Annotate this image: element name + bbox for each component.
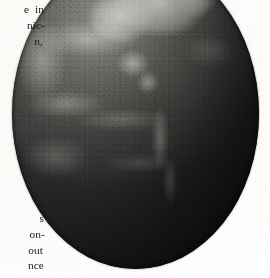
text-line: n,: [0, 34, 58, 50]
text-line: nic-: [0, 18, 58, 34]
text-line: nce: [0, 258, 58, 274]
margin-text-bottom: s on- out nce: [0, 211, 58, 274]
scanned-page: e in nic- n, s on- out nce: [0, 0, 270, 278]
text-line: on-: [0, 227, 58, 243]
text-line: out: [0, 243, 58, 259]
margin-text-top: e in nic- n,: [0, 2, 58, 49]
text-line: e in: [0, 2, 58, 18]
text-line: s: [0, 211, 58, 227]
